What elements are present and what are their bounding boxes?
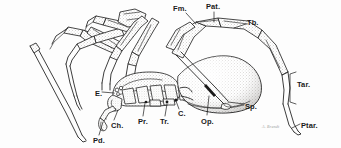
artist-signature: A. Brandt (262, 124, 279, 129)
spider-anatomy-figure: .ol{fill:none;stroke:#1a1a1a;stroke-widt… (0, 0, 341, 148)
label-pedipalp: Pd. (93, 137, 105, 145)
label-spinnerets: Sp. (245, 103, 257, 111)
label-patella: Pat. (206, 3, 220, 11)
label-trochanter: Tr. (160, 118, 169, 126)
label-opisthosoma: Op. (201, 118, 214, 126)
tarsus-bracket (290, 72, 296, 104)
leader-c (176, 101, 179, 109)
label-chelicera: Ch. (111, 122, 123, 130)
spider-illustration: .ol{fill:none;stroke:#1a1a1a;stroke-widt… (0, 0, 341, 148)
leader-fm (186, 13, 196, 24)
label-femur: Fm. (173, 5, 187, 13)
label-pretarsus: Ptar. (301, 122, 318, 130)
leader-e (102, 92, 114, 93)
label-coxa: C. (178, 110, 186, 118)
leader-tr (165, 104, 167, 116)
label-prosoma: Pr. (138, 118, 148, 126)
label-tarsus: Tar. (297, 81, 310, 89)
leader-ch (114, 110, 118, 120)
spinnerets (221, 104, 231, 110)
label-eyes: E. (95, 90, 102, 98)
label-tibia: Tb. (247, 19, 259, 27)
